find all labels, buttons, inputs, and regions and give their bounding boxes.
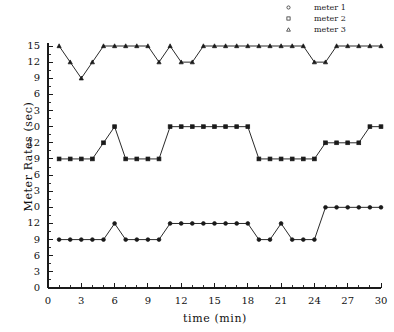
series-meter-3 xyxy=(57,44,383,80)
data-point-marker xyxy=(68,238,72,242)
data-point-marker xyxy=(224,125,228,129)
data-point-marker xyxy=(146,238,150,242)
data-point-marker xyxy=(290,157,294,161)
data-point-marker xyxy=(301,157,305,161)
data-point-marker xyxy=(324,141,328,145)
data-point-marker xyxy=(313,157,317,161)
series-line xyxy=(59,127,381,159)
data-point-marker xyxy=(246,222,250,226)
data-point-marker xyxy=(57,238,61,242)
data-point-marker xyxy=(279,157,283,161)
data-series-layer xyxy=(57,44,383,242)
data-point-marker xyxy=(213,222,217,226)
data-point-marker xyxy=(235,125,239,129)
series-meter-1 xyxy=(57,205,383,241)
data-point-marker xyxy=(146,157,150,161)
data-point-marker xyxy=(279,222,283,226)
data-point-marker xyxy=(79,157,83,161)
data-point-marker xyxy=(301,238,305,242)
data-point-marker xyxy=(379,125,383,129)
data-point-marker xyxy=(324,205,328,209)
data-point-marker xyxy=(168,44,172,48)
data-point-marker xyxy=(124,238,128,242)
data-point-marker xyxy=(346,141,350,145)
data-point-marker xyxy=(113,125,117,129)
series-meter-2 xyxy=(57,125,383,161)
data-point-marker xyxy=(57,157,61,161)
chart-container: meter 1 meter 2 meter 3 Meter Rates (sec… xyxy=(0,0,394,332)
data-point-marker xyxy=(335,205,339,209)
data-point-marker xyxy=(124,157,128,161)
data-point-marker xyxy=(179,222,183,226)
series-line xyxy=(59,46,381,78)
data-point-marker xyxy=(91,157,95,161)
data-point-marker xyxy=(368,125,372,129)
data-point-marker xyxy=(335,141,339,145)
data-point-marker xyxy=(135,157,139,161)
data-point-marker xyxy=(346,205,350,209)
data-point-marker xyxy=(157,238,161,242)
data-point-marker xyxy=(268,157,272,161)
data-point-marker xyxy=(91,238,95,242)
data-point-marker xyxy=(57,44,61,48)
data-point-marker xyxy=(257,157,261,161)
data-point-marker xyxy=(235,222,239,226)
data-point-marker xyxy=(368,205,372,209)
data-point-marker xyxy=(202,125,206,129)
axes-lines xyxy=(48,43,381,288)
data-point-marker xyxy=(313,238,317,242)
data-point-marker xyxy=(102,238,106,242)
data-point-marker xyxy=(157,157,161,161)
data-point-marker xyxy=(168,222,172,226)
data-point-marker xyxy=(113,222,117,226)
data-point-marker xyxy=(79,238,83,242)
data-point-marker xyxy=(190,222,194,226)
data-point-marker xyxy=(202,222,206,226)
data-point-marker xyxy=(357,141,361,145)
data-point-marker xyxy=(357,205,361,209)
data-point-marker xyxy=(257,238,261,242)
data-point-marker xyxy=(213,125,217,129)
data-point-marker xyxy=(168,125,172,129)
data-point-marker xyxy=(190,125,194,129)
plot-area xyxy=(0,0,394,332)
data-point-marker xyxy=(68,157,72,161)
data-point-marker xyxy=(179,125,183,129)
data-point-marker xyxy=(379,205,383,209)
axis-tick-marks xyxy=(48,46,381,288)
data-point-marker xyxy=(246,125,250,129)
data-point-marker xyxy=(290,238,294,242)
series-line xyxy=(59,207,381,239)
data-point-marker xyxy=(102,141,106,145)
data-point-marker xyxy=(268,238,272,242)
data-point-marker xyxy=(224,222,228,226)
data-point-marker xyxy=(135,238,139,242)
